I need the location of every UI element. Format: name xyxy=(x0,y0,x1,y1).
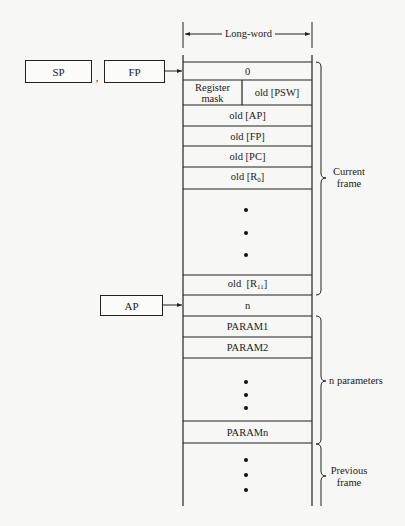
cell-subscript: 11 xyxy=(257,283,264,291)
ellipsis-dot xyxy=(244,231,248,235)
n-parameters-brace xyxy=(316,316,326,444)
cell-text: PARAM2 xyxy=(227,342,269,353)
cell-text: old [R xyxy=(231,171,258,182)
ellipsis-dot xyxy=(244,488,248,492)
label-line: frame xyxy=(327,178,371,190)
cell-text: old [PC] xyxy=(230,151,266,162)
cell-bracket: ] xyxy=(261,171,265,182)
fp-register-box: FP xyxy=(104,60,165,83)
stack-row-old-pc: old [PC] xyxy=(183,146,312,167)
ap-label: AP xyxy=(124,300,138,312)
stack-row-zero: 0 xyxy=(183,62,312,80)
cell-text: old [R xyxy=(228,278,257,289)
ellipsis-dot xyxy=(244,473,248,477)
sp-register-box: SP xyxy=(25,60,92,83)
stack-row-paramn: PARAMn xyxy=(183,421,312,443)
long-word-label: Long-word xyxy=(222,28,275,40)
ellipsis-dot xyxy=(244,458,248,462)
cell-text: old [PSW] xyxy=(255,87,300,98)
previous-frame-brace xyxy=(316,444,326,506)
stack-row-param2: PARAM2 xyxy=(183,337,312,358)
stack-cell-old-psw: old [PSW] xyxy=(242,80,312,105)
ellipsis-dot xyxy=(244,253,248,257)
current-frame-brace xyxy=(316,62,326,295)
n-parameters-label: n parameters xyxy=(329,375,399,387)
stack-row-old-ap: old [AP] xyxy=(183,105,312,126)
stack-row-old-r0: old [R0] xyxy=(183,167,312,189)
current-frame-label: Current frame xyxy=(327,166,371,190)
cell-text: 0 xyxy=(245,66,250,77)
sp-label: SP xyxy=(52,66,64,78)
cell-text: old [AP] xyxy=(229,110,265,121)
ellipsis-dot xyxy=(244,406,248,410)
label-line: Current xyxy=(327,166,371,178)
stack-cell-register-mask: Register mask xyxy=(183,80,242,105)
cell-text: PARAMn xyxy=(227,427,269,438)
stack-row-old-r11: old [R11] xyxy=(183,275,312,295)
cell-text: Register mask xyxy=(189,82,236,104)
cell-text: PARAM1 xyxy=(227,321,269,332)
stack-row-param1: PARAM1 xyxy=(183,316,312,337)
cell-text: n xyxy=(245,300,250,311)
ap-register-box: AP xyxy=(100,295,163,316)
register-separator: , xyxy=(94,72,100,84)
ellipsis-dot xyxy=(244,380,248,384)
fp-label: FP xyxy=(128,66,140,78)
label-line: frame xyxy=(327,477,371,489)
label-line: Previous xyxy=(327,465,371,477)
ellipsis-dot xyxy=(244,208,248,212)
cell-text: old [FP] xyxy=(230,131,265,142)
ellipsis-dot xyxy=(244,393,248,397)
stack-row-n: n xyxy=(183,295,312,316)
previous-frame-label: Previous frame xyxy=(327,465,371,489)
cell-bracket: ] xyxy=(264,278,268,289)
stack-row-old-fp: old [FP] xyxy=(183,126,312,146)
